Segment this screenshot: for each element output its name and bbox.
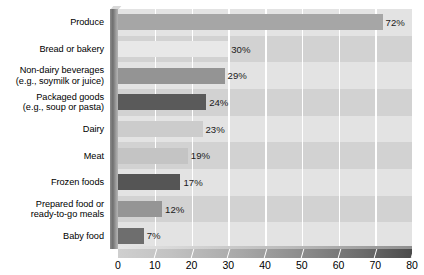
bar-value-label: 7% — [147, 230, 161, 241]
bar — [118, 201, 162, 217]
plot-left-bevel — [110, 9, 118, 249]
x-axis-tick — [153, 249, 157, 258]
x-axis-tick-label: 20 — [186, 259, 198, 271]
bar-value-label: 19% — [191, 150, 210, 161]
category-axis-labels: ProduceBread or bakeryNon-dairy beverage… — [0, 0, 108, 240]
bar-chart: ProduceBread or bakeryNon-dairy beverage… — [0, 0, 424, 275]
bar — [118, 228, 144, 244]
category-label: Meat — [84, 151, 104, 161]
x-axis-tick-label: 50 — [296, 259, 308, 271]
x-axis-tick-label: 70 — [369, 259, 381, 271]
bar — [118, 14, 383, 30]
category-label: Non-dairy beverages (e.g., soymilk or ju… — [16, 65, 104, 85]
bar-value-label: 72% — [386, 17, 405, 28]
x-axis-tick-label: 0 — [115, 259, 121, 271]
gridline — [375, 9, 377, 249]
x-axis-tick-label: 30 — [222, 259, 234, 271]
gridline — [339, 9, 341, 249]
category-label: Dairy — [83, 124, 104, 134]
x-axis-tick-label: 40 — [259, 259, 271, 271]
bar — [118, 68, 225, 84]
category-label: Packaged goods (e.g., soup or pasta) — [23, 92, 104, 112]
gridline — [265, 9, 267, 249]
x-axis-bar — [118, 249, 412, 258]
category-label: Bread or bakery — [39, 44, 104, 54]
bar — [118, 148, 188, 164]
x-axis-tick-label: 10 — [149, 259, 161, 271]
bar — [118, 41, 228, 57]
x-axis-tick-label: 80 — [406, 259, 418, 271]
bar — [118, 121, 203, 137]
x-axis-tick — [227, 249, 231, 258]
x-axis-tick — [411, 249, 415, 258]
bar-value-label: 29% — [228, 70, 247, 81]
bar — [118, 174, 180, 190]
gridline — [302, 9, 304, 249]
bar — [118, 94, 206, 110]
bar-value-label: 23% — [206, 124, 225, 135]
x-axis-tick — [337, 249, 341, 258]
bar-value-label: 17% — [183, 177, 202, 188]
x-axis-tick — [264, 249, 268, 258]
gridline — [228, 9, 230, 249]
x-axis-tick — [300, 249, 304, 258]
category-label: Baby food — [63, 231, 104, 241]
x-axis-tick — [374, 249, 378, 258]
bar-value-label: 12% — [165, 204, 184, 215]
category-label: Prepared food or ready-to-go meals — [31, 199, 104, 219]
category-label: Frozen foods — [51, 177, 104, 187]
x-axis-tick-label: 60 — [333, 259, 345, 271]
bar-value-label: 24% — [209, 97, 228, 108]
plot-area — [118, 9, 412, 249]
bar-value-label: 30% — [231, 44, 250, 55]
x-axis-tick — [190, 249, 194, 258]
category-label: Produce — [70, 17, 104, 27]
